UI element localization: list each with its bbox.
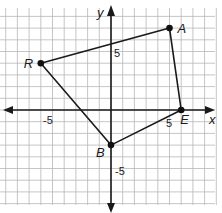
point-A-dot [166,25,173,32]
tick-y-5: 5 [114,47,120,59]
grid-lines [0,8,216,205]
tick-x-5: 5 [166,117,172,129]
point-B-dot [108,142,115,149]
y-axis-down-arrow-icon [107,203,115,213]
y-axis-up-arrow-icon [107,5,115,16]
tick-x-neg5: -5 [43,114,53,126]
point-R-label: R [24,56,33,71]
y-axis-label: y [96,5,105,20]
tick-labels: -5 5 5 -5 [43,47,172,177]
point-B-label: B [96,145,105,160]
x-axis-left-arrow-icon [3,106,13,114]
point-A-label: A [177,21,187,36]
point-R-dot [38,60,45,67]
tick-y-neg5: -5 [115,165,125,177]
coordinate-plane: x y -5 5 5 -5 AEBR [0,0,222,213]
point-E-label: E [180,112,189,127]
x-axis-label: x [208,112,216,127]
